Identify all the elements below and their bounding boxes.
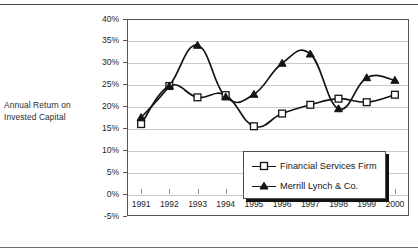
y-axis-tick [123,19,127,20]
y-axis-tick [123,84,127,85]
y-axis-tick-label: 0% [89,189,119,199]
y-axis-tick-label: 15% [89,123,119,133]
y-axis-tick-label: 40% [89,14,119,24]
legend-entry-merrill-lynch[interactable]: Merrill Lynch & Co. [252,179,358,193]
y-axis-tick [123,62,127,63]
y-axis-tick [123,150,127,151]
y-axis-tick-label: 35% [89,35,119,45]
chart-figure: Annual Return on Invested Capital -5%0%5… [0,0,418,248]
y-axis-tick [123,216,127,217]
y-axis-tick [123,40,127,41]
gridline [128,41,408,42]
y-axis-tick-label: 10% [89,145,119,155]
y-axis-tick-label: 25% [89,79,119,89]
gridline [128,63,408,64]
open-square-marker-icon [252,160,276,172]
x-axis-tick [198,189,199,194]
y-axis-tick-label: -5% [89,211,119,221]
x-axis-tick [395,189,396,194]
y-axis-caption-line-1: Annual Return on [4,100,96,112]
legend-label-1: Merrill Lynch & Co. [276,181,358,191]
gridline [128,107,408,108]
y-axis-tick-label: 30% [89,57,119,67]
gridline [128,85,408,86]
y-axis-tick [123,106,127,107]
y-axis-caption-line-2: Invested Capital [4,112,96,124]
y-axis-tick [123,172,127,173]
chart-legend: Financial Services Firm Merrill Lynch & … [243,151,386,199]
y-axis-tick-label: 20% [89,101,119,111]
top-divider-rule [0,4,418,5]
filled-triangle-marker-icon [252,180,276,192]
legend-label-0: Financial Services Firm [276,161,377,171]
y-axis-tick [123,194,127,195]
legend-entry-financial-services-firm[interactable]: Financial Services Firm [252,159,377,173]
x-axis-tick [169,189,170,194]
gridline [128,129,408,130]
y-axis-tick [123,128,127,129]
x-axis-tick [141,189,142,194]
y-axis-caption: Annual Return on Invested Capital [4,100,96,123]
x-axis-tick [226,189,227,194]
y-axis-tick-label: 5% [89,167,119,177]
